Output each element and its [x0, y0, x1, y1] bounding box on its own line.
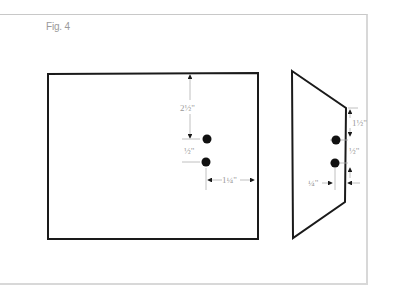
figure-drawing: 2½" ½" 1¼" 1½" ½" ¼" — [0, 0, 395, 291]
side-hole-upper — [332, 136, 341, 145]
side-view: 1½" ½" ¼" — [292, 71, 367, 238]
side-hole-lower — [331, 159, 340, 168]
side-dim-hole-spacing: ½" — [349, 146, 360, 156]
dim-hole-to-edge: 1¼" — [222, 175, 237, 185]
front-view: 2½" ½" 1¼" — [48, 73, 258, 239]
hole-upper — [203, 135, 212, 144]
front-view-outline — [48, 73, 258, 239]
hole-lower — [202, 158, 211, 167]
dim-top-to-hole: 2½" — [180, 103, 195, 113]
side-dim-hole-to-edge: ¼" — [308, 178, 319, 188]
side-view-outline — [292, 71, 346, 238]
side-dim-top-to-hole: 1½" — [352, 118, 367, 128]
dim-hole-spacing: ½" — [184, 146, 195, 156]
